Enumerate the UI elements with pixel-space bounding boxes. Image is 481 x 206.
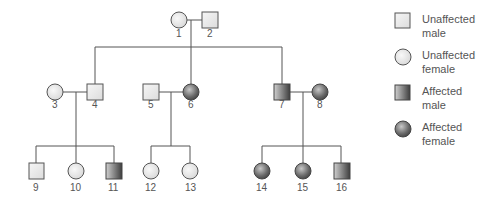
- individual-5-unaffected-male: [143, 84, 159, 100]
- unaffected-female-circle-icon: [393, 47, 413, 67]
- legend-item-unaffected-female: Unaffected female: [393, 46, 481, 82]
- legend-label-line2: female: [422, 134, 462, 148]
- legend-item-affected-male: Affected male: [393, 82, 481, 118]
- label-13: 13: [185, 182, 197, 193]
- affected-female-circle-icon: [393, 119, 413, 139]
- label-7: 7: [279, 99, 285, 110]
- label-11: 11: [108, 182, 119, 193]
- individual-1-unaffected-female: [171, 12, 187, 28]
- unaffected-male-square-icon: [393, 11, 413, 31]
- individual-10-unaffected-female: [68, 163, 84, 179]
- individual-8-affected-female: [312, 84, 328, 100]
- legend-label-line1: Unaffected: [422, 12, 475, 26]
- label-5: 5: [148, 99, 154, 110]
- individual-3-unaffected-female: [47, 84, 63, 100]
- label-8: 8: [317, 99, 323, 110]
- label-12: 12: [145, 182, 157, 193]
- individual-4-unaffected-male: [87, 84, 103, 100]
- legend-item-unaffected-male: Unaffected male: [393, 10, 481, 46]
- legend-label-line2: male: [422, 98, 462, 112]
- individual-16-affected-male: [334, 163, 350, 179]
- label-9: 9: [33, 182, 39, 193]
- individual-2-unaffected-male: [202, 12, 218, 28]
- individual-7-affected-male: [274, 84, 290, 100]
- label-2: 2: [207, 28, 213, 39]
- label-16: 16: [336, 182, 348, 193]
- legend-label-line2: female: [422, 62, 475, 76]
- legend-label-line1: Affected: [422, 120, 462, 134]
- label-4: 4: [92, 99, 98, 110]
- legend-label-line2: male: [422, 26, 475, 40]
- individual-15-affected-female: [295, 163, 311, 179]
- label-6: 6: [188, 99, 194, 110]
- individual-12-unaffected-female: [143, 163, 159, 179]
- individual-11-affected-male: [106, 163, 122, 179]
- label-14: 14: [256, 182, 268, 193]
- label-3: 3: [52, 99, 58, 110]
- legend-label-line1: Unaffected: [422, 48, 475, 62]
- individual-9-unaffected-male: [29, 163, 44, 179]
- label-15: 15: [297, 182, 309, 193]
- legend-item-affected-female: Affected female: [393, 118, 481, 154]
- individual-13-unaffected-female: [182, 163, 198, 179]
- individual-6-affected-female: [183, 84, 199, 100]
- label-10: 10: [70, 182, 82, 193]
- individual-14-affected-female: [254, 163, 270, 179]
- legend: Unaffected male Unaffected female Affect…: [393, 10, 481, 154]
- affected-male-square-icon: [393, 83, 413, 103]
- label-1: 1: [176, 28, 182, 39]
- legend-label-line1: Affected: [422, 84, 462, 98]
